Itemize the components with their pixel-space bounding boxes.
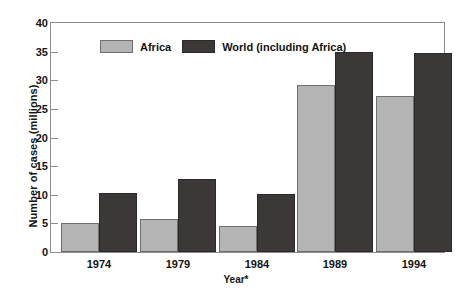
y-tick-label: 0 — [18, 246, 48, 258]
y-tick-mark — [51, 223, 58, 224]
bar-africa-1979 — [140, 219, 178, 252]
legend-swatch-world — [182, 40, 215, 53]
bars-layer — [51, 23, 444, 252]
chart-legend: Africa World (including Africa) — [100, 40, 346, 53]
bar-chart-figure: Number of cases (millions) 0510152025303… — [0, 0, 472, 296]
bar-world-1994 — [414, 53, 452, 252]
bar-group — [297, 23, 373, 252]
legend-entry-africa: Africa — [100, 40, 171, 53]
y-tick-label: 40 — [18, 17, 48, 29]
y-tick-mark — [51, 109, 58, 110]
y-tick-label: 10 — [18, 189, 48, 201]
bar-africa-1974 — [61, 223, 99, 252]
legend-entry-world: World (including Africa) — [182, 40, 346, 53]
x-tick-label: 1994 — [374, 258, 454, 270]
bar-africa-1994 — [376, 96, 414, 252]
x-tick-label: 1974 — [59, 258, 139, 270]
bar-world-1989 — [335, 52, 373, 252]
bar-world-1984 — [257, 194, 295, 252]
y-tick-mark — [51, 166, 58, 167]
legend-swatch-africa — [100, 40, 133, 53]
bar-africa-1989 — [297, 85, 335, 252]
bar-group — [61, 23, 137, 252]
y-tick-label: 25 — [18, 103, 48, 115]
y-tick-mark — [51, 52, 58, 53]
bar-africa-1984 — [219, 226, 257, 252]
legend-label-world: World (including Africa) — [222, 41, 346, 53]
bar-world-1979 — [178, 179, 216, 252]
bar-world-1974 — [99, 193, 137, 252]
y-tick-mark — [51, 138, 58, 139]
y-tick-label: 30 — [18, 74, 48, 86]
legend-label-africa: Africa — [140, 41, 171, 53]
x-tick-label: 1979 — [138, 258, 218, 270]
y-tick-label: 5 — [18, 217, 48, 229]
x-axis-title: Year* — [0, 274, 472, 285]
y-tick-mark — [51, 195, 58, 196]
y-axis-ticks: 0510152025303540 — [0, 0, 48, 296]
x-tick-label: 1984 — [217, 258, 297, 270]
y-tick-mark — [51, 80, 58, 81]
y-tick-label: 35 — [18, 46, 48, 58]
bar-group — [376, 23, 452, 252]
x-tick-label: 1989 — [295, 258, 375, 270]
bar-group — [219, 23, 295, 252]
y-tick-label: 15 — [18, 160, 48, 172]
bar-group — [140, 23, 216, 252]
y-tick-label: 20 — [18, 132, 48, 144]
